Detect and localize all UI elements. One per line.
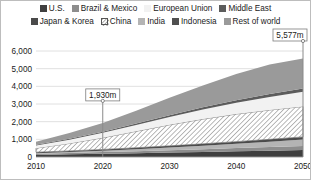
legend-item-japan-korea[interactable]: Japan & Korea	[31, 17, 94, 26]
x-tick-label-2030: 2030	[160, 162, 179, 171]
legend-swatch-european-union	[144, 5, 151, 12]
y-tick-label-4000: 4,000	[12, 82, 33, 91]
legend-label-india: India	[147, 17, 165, 26]
chart-plot-container: 01,0002,0003,0004,0005,0006,000 20102020…	[0, 27, 311, 180]
x-tick-label-2020: 2020	[94, 162, 113, 171]
legend-swatch-brazil-mexico	[72, 5, 79, 12]
legend-label-brazil-mexico: Brazil & Mexico	[81, 4, 137, 13]
legend-item-india[interactable]: India	[138, 17, 165, 26]
legend-swatch-china	[101, 18, 108, 25]
legend-label-japan-korea: Japan & Korea	[40, 17, 94, 26]
legend-item-rest-of-world[interactable]: Rest of world	[224, 17, 281, 26]
legend-label-china: China	[110, 17, 131, 26]
y-tick-label-2000: 2,000	[12, 118, 33, 127]
x-axis-tick-labels: 20102020203020402050	[27, 162, 311, 171]
legend-item-brazil-mexico[interactable]: Brazil & Mexico	[72, 4, 137, 13]
y-tick-label-1000: 1,000	[12, 135, 33, 144]
chart-root: U.S. Brazil & Mexico European Union Midd…	[0, 0, 311, 180]
legend-item-middle-east[interactable]: Middle East	[219, 4, 271, 13]
y-axis-tick-labels: 01,0002,0003,0004,0005,0006,000	[12, 47, 33, 162]
legend-item-china[interactable]: China	[101, 17, 131, 26]
area-series-layer	[36, 58, 303, 157]
legend-label-rest-of-world: Rest of world	[233, 17, 281, 26]
callout-2020-label: 1,930m	[89, 91, 116, 100]
y-tick-label-5000: 5,000	[12, 65, 33, 74]
x-tick-label-2050: 2050	[294, 162, 311, 171]
chart-legend: U.S. Brazil & Mexico European Union Midd…	[0, 0, 311, 28]
y-tick-label-0: 0	[27, 153, 32, 162]
legend-label-us: U.S.	[49, 4, 65, 13]
legend-swatch-japan-korea	[31, 18, 38, 25]
legend-swatch-rest-of-world	[224, 18, 231, 25]
legend-row-2: Japan & Korea China I	[0, 15, 311, 27]
legend-label-middle-east: Middle East	[228, 4, 271, 13]
legend-item-indonesia[interactable]: Indonesia	[172, 17, 217, 26]
y-tick-label-6000: 6,000	[12, 47, 33, 56]
legend-swatch-middle-east	[219, 5, 226, 12]
legend-item-european-union[interactable]: European Union	[144, 4, 212, 13]
legend-swatch-indonesia	[172, 18, 179, 25]
x-tick-label-2040: 2040	[227, 162, 246, 171]
stacked-area-chart: 01,0002,0003,0004,0005,0006,000 20102020…	[0, 27, 311, 180]
legend-label-indonesia: Indonesia	[181, 17, 217, 26]
y-tick-label-3000: 3,000	[12, 100, 33, 109]
legend-label-european-union: European Union	[153, 4, 212, 13]
x-tick-label-2010: 2010	[27, 162, 46, 171]
legend-swatch-us	[40, 5, 47, 12]
legend-swatch-india	[138, 18, 145, 25]
callout-2050-label: 5,577m	[276, 31, 303, 40]
legend-row-1: U.S. Brazil & Mexico European Union Midd…	[0, 2, 311, 14]
legend-item-us[interactable]: U.S.	[40, 4, 65, 13]
